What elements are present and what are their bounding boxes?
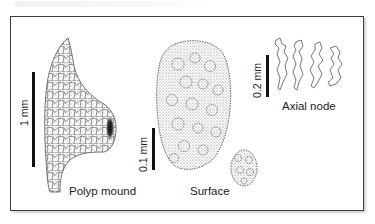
label-axial-node: Axial node [282, 100, 336, 112]
scale-label-1mm: 1 mm [18, 100, 30, 126]
scale-label-0-1mm: 0.1 mm [137, 137, 149, 172]
scale-bar-0-1mm [152, 128, 155, 170]
scale-label-0-2mm: 0.2 mm [251, 63, 263, 98]
illustration-canvas [0, 0, 375, 224]
scale-bar-0-2mm [266, 55, 269, 97]
surface-illustration-small [231, 150, 257, 186]
scale-bar-1mm [32, 72, 35, 167]
label-surface: Surface [190, 185, 230, 197]
axial-node-illustrations [275, 38, 342, 90]
surface-illustration-large [157, 41, 231, 170]
polyp-mound-illustration [45, 38, 116, 192]
label-polyp-mound: Polyp mound [69, 185, 136, 197]
